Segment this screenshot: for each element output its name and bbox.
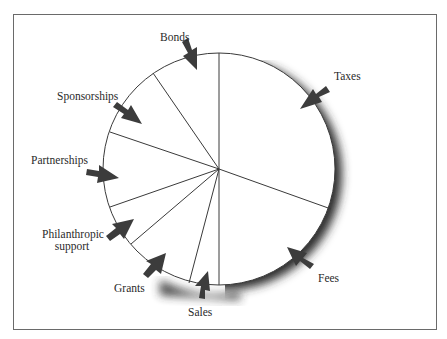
label-bonds: Bonds [160,31,189,43]
label-sponsorships: Sponsorships [57,90,118,102]
label-philanthropic-line2: support [42,240,102,252]
label-philanthropic-line1: Philanthropic [42,228,102,240]
label-fees: Fees [318,272,339,284]
label-grants: Grants [114,282,145,294]
label-taxes: Taxes [334,70,361,82]
label-philanthropic-support: Philanthropic support [42,228,102,252]
pie-chart [0,0,447,339]
label-sales: Sales [188,306,212,318]
label-partnerships: Partnerships [31,154,88,166]
